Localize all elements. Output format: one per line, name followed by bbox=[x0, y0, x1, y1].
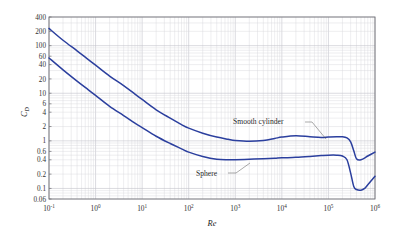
y-tick-label: 1 bbox=[42, 137, 46, 145]
svg-text:CD: CD bbox=[20, 106, 30, 117]
y-tick-label: 100 bbox=[35, 42, 46, 50]
annotation-sphere: Sphere bbox=[196, 163, 250, 178]
x-tick-label: 105 bbox=[323, 203, 333, 213]
leader-line-sphere bbox=[228, 163, 250, 173]
annotation-smooth-cylinder: Smooth cylinder bbox=[233, 117, 326, 139]
y-tick-label: 20 bbox=[39, 76, 47, 84]
y-tick-label: 0.1 bbox=[37, 185, 46, 193]
x-tick-label: 106 bbox=[370, 203, 380, 213]
svg-text:105: 105 bbox=[323, 203, 333, 213]
x-axis-tick-labels: 10-1100101102103104105106 bbox=[43, 203, 380, 213]
chart-canvas: 4002001006040201064210.60.40.20.10.06 10… bbox=[0, 0, 395, 235]
x-tick-label: 100 bbox=[91, 203, 101, 213]
x-tick-label: 101 bbox=[137, 203, 147, 213]
svg-text:101: 101 bbox=[137, 203, 147, 213]
y-tick-label: 40 bbox=[39, 61, 47, 69]
y-tick-label: 0.2 bbox=[37, 171, 46, 179]
drag-coefficient-chart: 4002001006040201064210.60.40.20.10.06 10… bbox=[0, 0, 395, 235]
y-tick-label: 60 bbox=[39, 53, 47, 61]
y-tick-label: 4 bbox=[42, 109, 46, 117]
svg-text:10-1: 10-1 bbox=[43, 203, 55, 213]
y-axis-title-sub: D bbox=[24, 106, 30, 112]
y-tick-label: 0.06 bbox=[33, 196, 46, 204]
y-tick-label: 0.6 bbox=[37, 148, 46, 156]
y-tick-label: 2 bbox=[42, 123, 46, 131]
svg-text:100: 100 bbox=[91, 203, 101, 213]
x-tick-label: 104 bbox=[277, 203, 287, 213]
svg-text:103: 103 bbox=[230, 203, 240, 213]
annotation-smooth-cylinder-label: Smooth cylinder bbox=[233, 117, 284, 126]
y-tick-label: 0.4 bbox=[37, 156, 46, 164]
svg-text:102: 102 bbox=[184, 203, 194, 213]
x-tick-label: 10-1 bbox=[43, 203, 55, 213]
svg-text:106: 106 bbox=[370, 203, 380, 213]
y-tick-label: 6 bbox=[42, 100, 46, 108]
annotation-sphere-label: Sphere bbox=[196, 169, 218, 178]
x-tick-label: 102 bbox=[184, 203, 194, 213]
x-tick-label: 103 bbox=[230, 203, 240, 213]
y-tick-label: 10 bbox=[39, 90, 47, 98]
svg-text:104: 104 bbox=[277, 203, 287, 213]
y-tick-label: 400 bbox=[35, 14, 46, 22]
y-tick-label: 200 bbox=[35, 28, 46, 36]
x-axis-title: Re bbox=[207, 219, 217, 228]
y-axis-title: CD bbox=[20, 106, 30, 117]
